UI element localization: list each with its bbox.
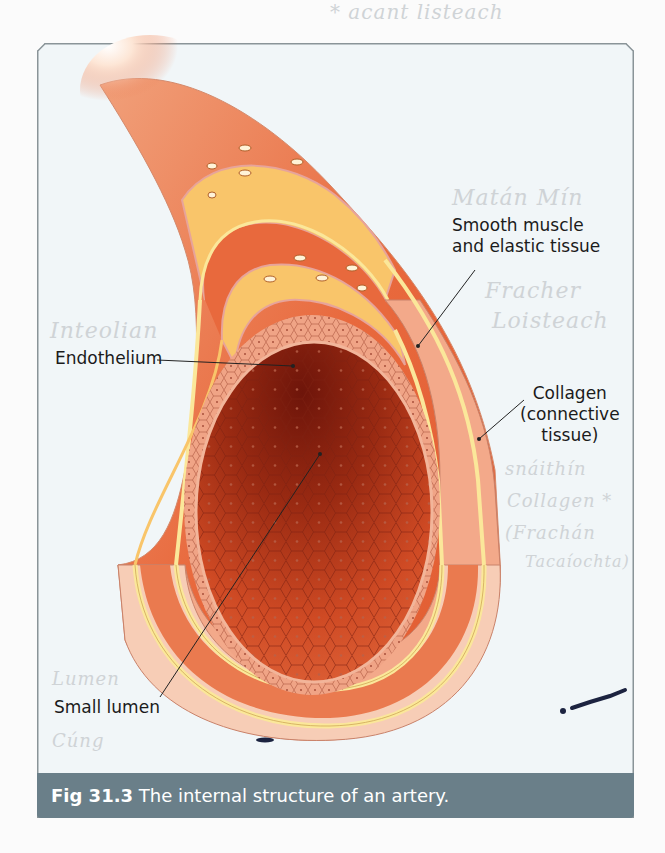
- handwritten-note-collagen-2: Collagen *: [507, 490, 612, 511]
- handwritten-note-collagen-1: snáithín: [505, 458, 587, 479]
- label-endothelium: Endothelium: [55, 348, 162, 369]
- label-collagen: Collagen (connective tissue): [520, 383, 620, 446]
- label-smooth-muscle-line1: Smooth muscle: [452, 215, 600, 236]
- handwritten-note-lumen-1: Lumen: [52, 668, 120, 689]
- label-collagen-line2: (connective: [520, 404, 620, 425]
- label-smooth-muscle-line2: and elastic tissue: [452, 236, 600, 257]
- label-smooth-muscle: Smooth muscle and elastic tissue: [452, 215, 600, 257]
- handwritten-note-elastic-1: Fracher: [485, 278, 581, 303]
- handwritten-note-smooth-muscle: Matán Mín: [452, 185, 584, 210]
- handwritten-note-endothelium: Inteolian: [50, 318, 158, 343]
- handwritten-note-collagen-4: Tacaíochta): [525, 552, 630, 571]
- label-collagen-line1: Collagen: [520, 383, 620, 404]
- label-small-lumen: Small lumen: [54, 697, 160, 718]
- figure-caption: Fig 31.3 The internal structure of an ar…: [37, 773, 634, 818]
- handwritten-note-collagen-3: (Frachán: [505, 522, 596, 543]
- figure-number: Fig 31.3: [51, 785, 133, 806]
- handwritten-note-elastic-2: Loisteach: [492, 308, 609, 333]
- figure-caption-text: The internal structure of an artery.: [139, 785, 449, 806]
- label-collagen-line3: tissue): [520, 425, 620, 446]
- handwritten-note-lumen-2: Cúng: [52, 730, 104, 751]
